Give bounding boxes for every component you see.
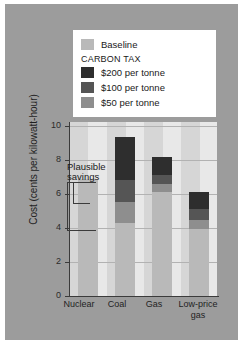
bar-segment-tax200 <box>115 137 135 180</box>
bar-segment-tax50 <box>189 220 209 229</box>
legend: Baseline CARBON TAX $200 per tonne $100 … <box>73 30 216 117</box>
legend-label-tax50: $50 per tonne <box>101 97 160 108</box>
bar-coal[interactable] <box>115 137 135 296</box>
plausible-savings-annotation: Plausible savings <box>67 162 106 182</box>
bar-segment-baseline <box>152 192 172 296</box>
legend-label-tax100: $100 per tonne <box>101 82 165 93</box>
legend-label-baseline: Baseline <box>101 39 137 50</box>
y-axis-title: Cost (cents per kilowatt-hour) <box>28 70 39 250</box>
figure: 10 8 6 4 2 0 Cost (cents per kilowatt-ho… <box>0 0 249 348</box>
legend-swatch-tax200 <box>81 67 94 78</box>
legend-item-tax200[interactable]: $200 per tonne <box>81 66 210 79</box>
y-tick-mark-10 <box>65 126 69 127</box>
y-tick-mark-0 <box>65 296 69 297</box>
legend-heading-carbon-tax: CARBON TAX <box>81 54 210 64</box>
gridline-10 <box>69 126 217 127</box>
bar-segment-baseline <box>189 229 209 296</box>
legend-item-tax100[interactable]: $100 per tonne <box>81 81 210 94</box>
plausible-savings-bracket-inner <box>73 182 90 204</box>
figure-panel: 10 8 6 4 2 0 Cost (cents per kilowatt-ho… <box>5 4 238 340</box>
x-label-low-price-gas: Low-price gas <box>169 299 227 321</box>
legend-swatch-tax50 <box>81 97 94 108</box>
bar-segment-baseline <box>115 223 135 296</box>
bar-low-price-gas[interactable] <box>189 192 209 296</box>
y-tick-label-2: 2 <box>31 257 61 266</box>
y-tick-mark-2 <box>65 262 69 263</box>
legend-label-tax200: $200 per tonne <box>101 67 165 78</box>
x-axis-line <box>69 296 219 297</box>
bar-segment-tax100 <box>189 209 209 220</box>
legend-item-baseline[interactable]: Baseline <box>81 38 210 51</box>
annotation-line-2: savings <box>67 172 106 182</box>
bar-segment-tax200 <box>189 192 209 209</box>
x-label-line-1: Low-price <box>178 299 217 309</box>
legend-swatch-tax100 <box>81 82 94 93</box>
bar-segment-tax50 <box>152 184 172 193</box>
legend-item-tax50[interactable]: $50 per tonne <box>81 96 210 109</box>
bar-segment-tax100 <box>115 180 135 202</box>
bar-gas[interactable] <box>152 157 172 297</box>
legend-swatch-baseline <box>81 39 94 50</box>
bar-segment-tax50 <box>115 202 135 223</box>
bar-segment-tax200 <box>152 157 172 175</box>
bar-segment-tax100 <box>152 175 172 184</box>
x-label-line-2: gas <box>191 310 206 320</box>
